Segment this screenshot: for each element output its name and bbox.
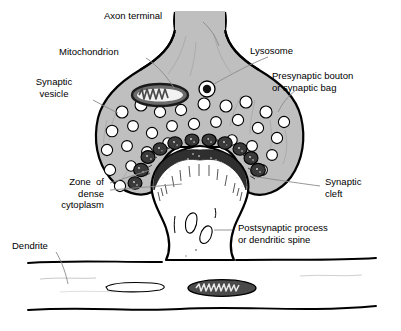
label-synaptic-cleft: Synaptic cleft bbox=[325, 176, 361, 199]
leader-dendrite bbox=[56, 252, 68, 284]
label-mitochondrion: Mitochondrion bbox=[59, 46, 119, 58]
presynaptic-mitochondrion bbox=[132, 84, 188, 106]
dendrite-mitochondrion bbox=[188, 280, 256, 297]
label-axon-terminal: Axon terminal bbox=[104, 10, 162, 22]
label-presynaptic-bouton: Presynaptic bouton or synaptic bag bbox=[272, 70, 353, 93]
label-lysosome: Lysosome bbox=[250, 45, 293, 57]
synapse-diagram: Axon terminal Mitochondrion Synaptic ves… bbox=[0, 0, 401, 331]
label-zone-of-dense-cytoplasm: Zone of dense cytoplasm bbox=[8, 176, 104, 211]
label-postsynaptic-process: Postsynaptic process or dendritic spine bbox=[238, 222, 328, 245]
dendrite-vacuole bbox=[106, 283, 164, 292]
label-dendrite: Dendrite bbox=[12, 240, 48, 252]
label-synaptic-vesicle: Synaptic vesicle bbox=[18, 76, 90, 99]
lysosome bbox=[199, 81, 215, 97]
